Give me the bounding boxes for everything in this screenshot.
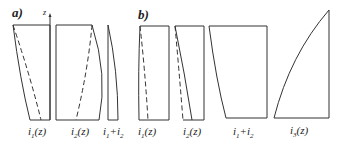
label-b-sum: i1+i2 (233, 125, 254, 140)
panel-a-label: a) (12, 5, 23, 21)
b-i3-shape (274, 10, 329, 118)
label-a-sum: i1+i2 (103, 125, 124, 140)
a-sum-shape (108, 25, 118, 120)
a-i1-shape (13, 25, 50, 120)
panel-b-figures (139, 10, 329, 120)
panel-b-label: b) (138, 7, 149, 23)
panel-a-figures (13, 13, 118, 120)
b-sum-shape (209, 26, 267, 118)
label-b-i1: i1(z) (138, 125, 156, 140)
label-a-i1: i1(z) (28, 125, 46, 140)
label-a-i2: i2(z) (71, 125, 89, 140)
z-axis-label: z (43, 8, 46, 17)
label-b-i3: i3(z) (290, 124, 308, 139)
b-i2-shape (175, 26, 204, 120)
b-i1-shape (139, 26, 169, 120)
label-b-i2: i2(z) (183, 125, 201, 140)
a-i2-shape (56, 25, 102, 120)
current-distribution-diagram (0, 0, 337, 147)
